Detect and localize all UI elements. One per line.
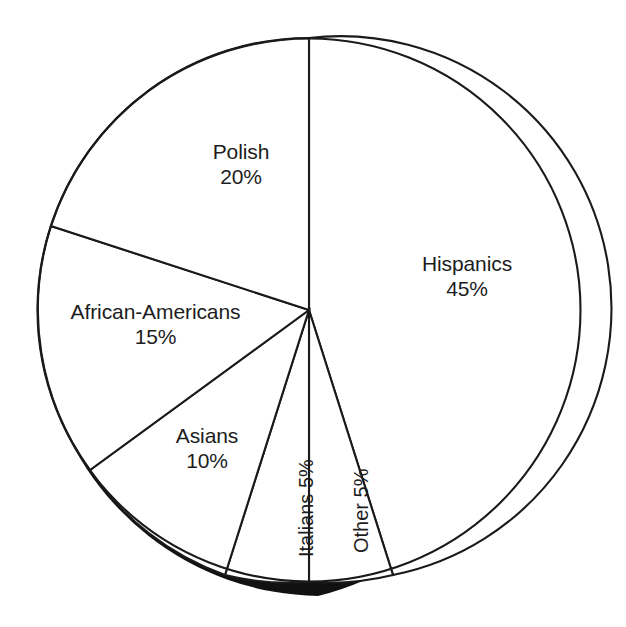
slice-label-hispanics-name: Hispanics bbox=[392, 252, 542, 277]
slice-label-polish-name: Polish bbox=[173, 140, 309, 165]
slice-label-polish-percent: 20% bbox=[173, 165, 309, 190]
slice-label-african-americans-percent: 15% bbox=[33, 325, 278, 350]
pie-chart-page: Hispanics 45% Polish 20% African-America… bbox=[0, 0, 626, 627]
slice-label-asians-name: Asians bbox=[140, 424, 274, 449]
slice-label-other-text: Other 5% bbox=[350, 469, 372, 553]
slice-label-hispanics: Hispanics 45% bbox=[392, 252, 542, 301]
slice-label-italians-text: Italians 5% bbox=[295, 459, 317, 557]
slice-label-italians: Italians 5% bbox=[296, 459, 316, 557]
slice-label-polish: Polish 20% bbox=[173, 140, 309, 189]
slice-label-asians-percent: 10% bbox=[140, 449, 274, 474]
slice-label-african-americans: African-Americans 15% bbox=[33, 300, 278, 349]
slice-label-hispanics-percent: 45% bbox=[392, 277, 542, 302]
slice-label-african-americans-name: African-Americans bbox=[33, 300, 278, 325]
slice-label-other: Other 5% bbox=[351, 469, 371, 553]
slice-label-asians: Asians 10% bbox=[140, 424, 274, 473]
